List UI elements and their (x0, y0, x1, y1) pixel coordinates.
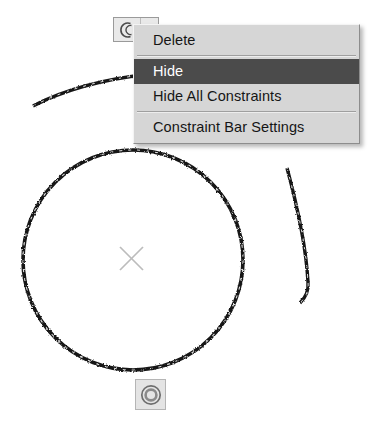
menu-separator (137, 111, 356, 113)
constraint-context-menu[interactable]: Delete Hide Hide All Constraints Constra… (133, 24, 360, 144)
right-arc (287, 168, 308, 303)
menu-item-label: Hide (153, 63, 183, 79)
cad-canvas: ▼ Delete Hide Hide All Constraints Const… (0, 0, 377, 442)
menu-item-label: Hide All Constraints (153, 88, 282, 104)
concentric-constraint-badge[interactable] (135, 379, 166, 410)
menu-item-hide[interactable]: Hide (134, 59, 359, 84)
concentric-constraint-icon (139, 383, 163, 407)
menu-item-label: Constraint Bar Settings (153, 119, 304, 135)
menu-item-constraint-bar-settings[interactable]: Constraint Bar Settings (134, 115, 359, 140)
menu-item-hide-all-constraints[interactable]: Hide All Constraints (134, 84, 359, 109)
menu-item-label: Delete (153, 32, 196, 48)
menu-item-delete[interactable]: Delete (134, 28, 359, 53)
menu-separator (137, 55, 356, 57)
center-point-marker (120, 247, 143, 270)
